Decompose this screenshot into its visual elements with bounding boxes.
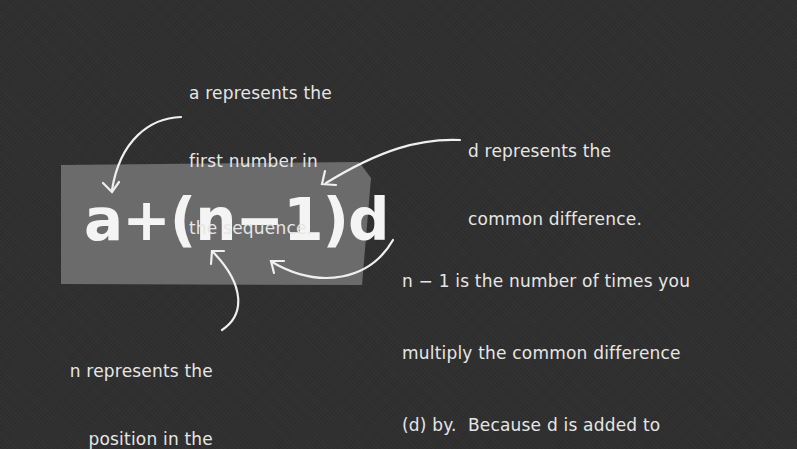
note-a-line: a represents the bbox=[189, 82, 332, 105]
note-n-minus-1-line: n − 1 is the number of times you bbox=[402, 269, 701, 293]
note-n-minus-1-line: (d) by. Because d is added to bbox=[402, 413, 701, 437]
note-n-minus-1-line: multiply the common difference bbox=[402, 341, 701, 365]
note-a-line: first number in bbox=[189, 150, 332, 173]
note-n-line: n represents the bbox=[8, 360, 213, 383]
note-a-line: the sequence. bbox=[189, 217, 332, 240]
note-n-minus-1: n − 1 is the number of times you multipl… bbox=[402, 221, 701, 449]
note-d-line: d represents the bbox=[468, 140, 642, 163]
note-a: a represents the first number in the seq… bbox=[189, 37, 332, 262]
note-n: n represents the position in the sequenc… bbox=[8, 315, 213, 449]
note-n-line: position in the bbox=[8, 428, 213, 449]
